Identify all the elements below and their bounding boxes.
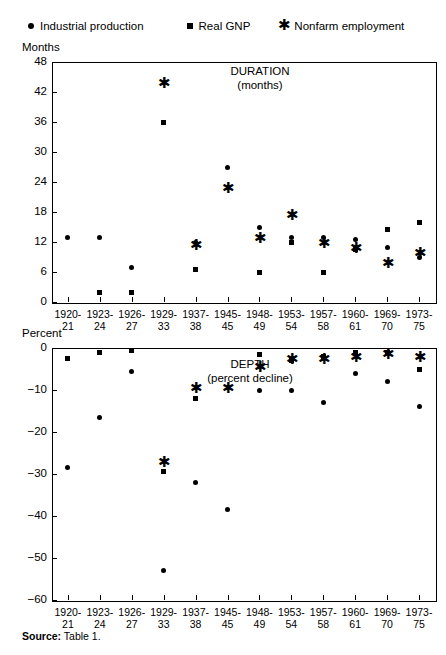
data-point-square <box>193 396 198 401</box>
y-axis-tick <box>52 92 57 93</box>
y-axis-tick-label: −30 <box>21 467 47 479</box>
data-point-dot <box>193 480 198 485</box>
x-axis-tick-label: 1923-24 <box>82 308 118 332</box>
y-axis-tick <box>52 432 57 433</box>
data-point-square <box>65 356 70 361</box>
duration-chart-title: DURATION <box>160 65 360 78</box>
data-point-dot <box>129 369 134 374</box>
x-axis-tick <box>387 595 388 600</box>
x-axis-tick <box>68 595 69 600</box>
x-axis-tick-label: 1945-45 <box>210 606 246 630</box>
data-point-asterisk: ✱ <box>158 457 169 468</box>
x-axis-tick <box>196 595 197 600</box>
dot-marker-icon <box>28 23 34 29</box>
legend-item-nonfarm-employment: ✱ Nonfarm employment <box>278 20 404 32</box>
x-axis-tick-label: 1953-54 <box>273 308 309 332</box>
x-axis-tick <box>259 595 260 600</box>
depth-chart-panel <box>52 348 437 602</box>
data-point-asterisk: ✱ <box>222 183 233 194</box>
x-axis-tick <box>291 297 292 302</box>
data-point-square <box>97 350 102 355</box>
x-axis-tick <box>228 297 229 302</box>
y-axis-tick <box>52 62 57 63</box>
x-axis-tick-label: 1960-61 <box>337 308 373 332</box>
legend-label: Industrial production <box>40 20 144 32</box>
data-point-dot <box>385 245 390 250</box>
x-axis-tick-label: 1948-49 <box>241 308 277 332</box>
depth-axis-label: Percent <box>22 327 62 339</box>
data-point-square <box>161 469 166 474</box>
x-axis-tick-label: 1926-27 <box>114 308 150 332</box>
x-axis-tick-label: 1937-38 <box>178 606 214 630</box>
data-point-dot <box>289 388 294 393</box>
x-axis-tick <box>196 297 197 302</box>
x-axis-tick <box>291 595 292 600</box>
x-axis-tick-label: 1973-75 <box>401 606 437 630</box>
x-axis-tick-label: 1957-58 <box>305 308 341 332</box>
y-axis-tick <box>52 390 57 391</box>
y-axis-tick <box>52 152 57 153</box>
data-point-square <box>257 352 262 357</box>
asterisk-marker-icon: ✱ <box>278 21 288 31</box>
y-axis-tick-label: 30 <box>21 145 47 157</box>
y-axis-tick-label: 6 <box>21 265 47 277</box>
x-axis-tick <box>100 297 101 302</box>
data-point-square <box>193 267 198 272</box>
x-axis-tick-label: 1948-49 <box>241 606 277 630</box>
y-axis-tick <box>52 474 57 475</box>
y-axis-tick-label: 12 <box>21 235 47 247</box>
data-point-square <box>257 270 262 275</box>
x-axis-tick-label: 1969-70 <box>369 606 405 630</box>
data-point-asterisk: ✱ <box>414 352 425 363</box>
y-axis-tick-label: −60 <box>21 593 47 605</box>
duration-axis-label: Months <box>22 41 60 53</box>
x-axis-tick <box>323 595 324 600</box>
y-axis-tick <box>52 272 57 273</box>
source-note: Source: Table 1. <box>22 630 101 642</box>
duration-chart-subtitle: (months) <box>160 79 360 92</box>
data-point-asterisk: ✱ <box>190 383 201 394</box>
x-axis-tick <box>355 595 356 600</box>
data-point-dot <box>321 400 326 405</box>
x-axis-tick <box>259 297 260 302</box>
x-axis-tick <box>132 297 133 302</box>
x-axis-tick-label: 1969-70 <box>369 308 405 332</box>
square-marker-icon <box>187 23 193 29</box>
data-point-asterisk: ✱ <box>382 349 393 360</box>
legend-item-real-gnp: Real GNP <box>187 20 251 32</box>
y-axis-tick-label: 0 <box>21 341 47 353</box>
data-point-dot <box>353 371 358 376</box>
y-axis-tick-label: 18 <box>21 205 47 217</box>
data-point-square <box>417 367 422 372</box>
data-point-dot <box>257 388 262 393</box>
y-axis-tick-label: −50 <box>21 551 47 563</box>
y-axis-tick <box>52 212 57 213</box>
x-axis-tick <box>68 297 69 302</box>
data-point-asterisk: ✱ <box>158 78 169 89</box>
data-point-asterisk: ✱ <box>350 352 361 363</box>
legend-item-industrial-production: Industrial production <box>28 20 144 32</box>
x-axis-tick <box>387 297 388 302</box>
x-axis-tick-label: 1929-33 <box>146 606 182 630</box>
data-point-square <box>161 120 166 125</box>
x-axis-tick <box>419 595 420 600</box>
data-point-asterisk: ✱ <box>254 362 265 373</box>
x-axis-tick-label: 1920-21 <box>50 606 86 630</box>
y-axis-tick <box>52 348 57 349</box>
x-axis-tick <box>100 595 101 600</box>
legend-label: Real GNP <box>199 20 251 32</box>
x-axis-tick-label: 1953-54 <box>273 606 309 630</box>
x-axis-tick-label: 1960-61 <box>337 606 373 630</box>
x-axis-tick <box>164 297 165 302</box>
y-axis-tick-label: 42 <box>21 85 47 97</box>
x-axis-tick-label: 1957-58 <box>305 606 341 630</box>
data-point-asterisk: ✱ <box>190 240 201 251</box>
data-point-dot <box>385 379 390 384</box>
x-axis-tick <box>419 297 420 302</box>
data-point-asterisk: ✱ <box>254 233 265 244</box>
y-axis-tick-label: 24 <box>21 175 47 187</box>
data-point-asterisk: ✱ <box>222 383 233 394</box>
data-point-asterisk: ✱ <box>318 354 329 365</box>
duration-chart-panel <box>52 62 437 304</box>
data-point-dot <box>97 235 102 240</box>
